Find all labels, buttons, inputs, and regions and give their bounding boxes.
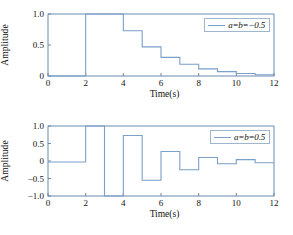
chart-panel-bottom: Amplitude −1.0−0.500.51.0 024681012 Time… <box>0 118 293 235</box>
legend-label-top: a=b=−0.5 <box>228 20 265 30</box>
legend-bottom[interactable]: a=b=0.5 <box>210 130 270 144</box>
legend-line-swatch-top <box>208 25 225 26</box>
legend-line-swatch-bottom <box>214 137 231 138</box>
x-axis-label-top: Time(s) <box>18 89 293 99</box>
x-axis-label-bottom: Time(s) <box>18 209 293 219</box>
plot-area-bottom: Amplitude −1.0−0.500.51.0 024681012 Time… <box>0 118 293 235</box>
chart-panel-top: Amplitude 00.51.0 024681012 Time(s) a=b=… <box>0 6 293 116</box>
figure: Amplitude 00.51.0 024681012 Time(s) a=b=… <box>0 0 293 235</box>
legend-top[interactable]: a=b=−0.5 <box>204 18 270 32</box>
legend-label-bottom: a=b=0.5 <box>234 132 265 142</box>
plot-area-top: Amplitude 00.51.0 024681012 Time(s) a=b=… <box>0 6 293 116</box>
